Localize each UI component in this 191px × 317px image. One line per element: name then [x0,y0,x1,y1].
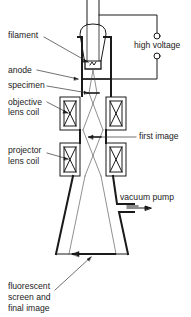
label-vacuum-pump: vacuum pump [120,192,174,202]
label-projector: projector [8,145,41,155]
leader-lines [37,37,136,290]
cathode-cap [80,24,106,61]
label-filament: filament [8,30,38,40]
label-screen-and: screen and [8,292,51,302]
terminal-bottom [154,53,160,59]
label-objective-lens-coil: lens coil [8,107,39,117]
final-image-arrow [72,252,115,257]
label-final-image: final image [8,303,50,313]
vacuum-pump-arrow [127,206,151,210]
terminal-top [154,33,160,39]
label-anode: anode [8,65,32,75]
objective-lens-coils [60,97,126,130]
projector-lens-coils [60,143,126,176]
label-high-voltage: high voltage [134,40,180,50]
projection-chamber [56,176,134,254]
label-fluorescent: fluorescent [8,281,50,291]
label-first-image: first image [139,131,179,141]
label-objective: objective [8,97,42,107]
label-projector-lens-coil: lens coil [8,156,39,166]
first-image-arrow [89,135,101,139]
label-specimen: specimen [8,80,45,90]
